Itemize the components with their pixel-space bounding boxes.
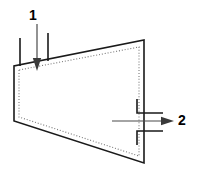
callout-1-group: 1: [29, 7, 41, 71]
callout-1-label: 1: [29, 7, 37, 23]
callout-2-label: 2: [178, 112, 186, 128]
callout-2-arrow-head-icon: [161, 117, 174, 125]
technical-diagram: 1 2: [0, 0, 201, 176]
diagram-canvas: 1 2: [0, 0, 201, 176]
